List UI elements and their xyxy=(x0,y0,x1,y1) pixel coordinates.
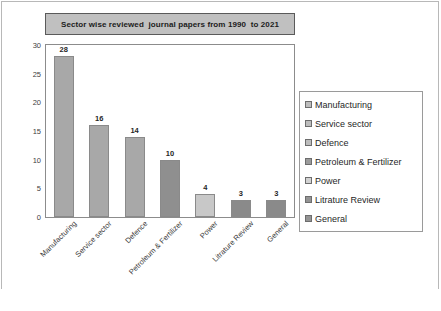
bar-item[interactable]: 3 xyxy=(266,45,286,217)
y-axis-tick-label: 5 xyxy=(37,184,41,193)
bar-item[interactable]: 3 xyxy=(231,45,251,217)
legend-swatch-icon xyxy=(305,196,312,203)
bar-rect xyxy=(160,160,180,217)
y-axis-tick-label: 0 xyxy=(37,213,41,222)
bar-rect xyxy=(195,194,215,217)
bar-value-label: 10 xyxy=(166,149,174,158)
legend-item-label: Litrature Review xyxy=(315,195,380,205)
chart-title: Sector wise reviewed journal papers from… xyxy=(61,20,279,29)
legend-item[interactable]: Service sector xyxy=(305,114,420,133)
y-axis-tick-label: 15 xyxy=(33,127,41,136)
legend-item-label: Manufacturing xyxy=(315,100,372,110)
bar-item[interactable]: 4 xyxy=(195,45,215,217)
legend-item[interactable]: Litrature Review xyxy=(305,190,420,209)
x-axis-tick-label: Service sector xyxy=(74,219,114,259)
bar-value-label: 3 xyxy=(239,189,243,198)
legend-item[interactable]: Defence xyxy=(305,133,420,152)
bar-rect xyxy=(89,125,109,217)
x-axis-tick-label: Power xyxy=(198,219,219,240)
legend-swatch-icon xyxy=(305,215,312,222)
y-axis-tick-label: 25 xyxy=(33,69,41,78)
bar-rect xyxy=(125,137,145,217)
chart-title-box: Sector wise reviewed journal papers from… xyxy=(45,13,295,35)
legend-item[interactable]: Power xyxy=(305,171,420,190)
bar-value-label: 4 xyxy=(203,183,207,192)
bar-value-label: 3 xyxy=(274,189,278,198)
legend-swatch-icon xyxy=(305,120,312,127)
bar-item[interactable]: 28 xyxy=(54,45,74,217)
bar-item[interactable]: 14 xyxy=(125,45,145,217)
legend-swatch-icon xyxy=(305,158,312,165)
bar-rect xyxy=(54,56,74,217)
x-axis-tick-label: Defence xyxy=(123,219,149,245)
chart-figure: Sector wise reviewed journal papers from… xyxy=(0,0,441,311)
y-axis: 051015202530 xyxy=(18,44,44,218)
legend-swatch-icon xyxy=(305,101,312,108)
legend-item-label: Petroleum & Fertilizer xyxy=(315,157,402,167)
x-axis-labels: ManufacturingService sectorDefencePetrol… xyxy=(46,219,294,309)
bar-value-label: 14 xyxy=(130,126,138,135)
legend-item-label: Defence xyxy=(315,138,349,148)
bar-rect xyxy=(231,200,251,217)
bar-rect xyxy=(266,200,286,217)
bar-item[interactable]: 16 xyxy=(89,45,109,217)
legend-item-label: Power xyxy=(315,176,341,186)
y-axis-tick-label: 20 xyxy=(33,98,41,107)
legend-swatch-icon xyxy=(305,177,312,184)
legend-item[interactable]: Manufacturing xyxy=(305,95,420,114)
legend-item-label: Service sector xyxy=(315,119,372,129)
bar-value-label: 16 xyxy=(95,114,103,123)
x-axis-tick-label: Manufacturing xyxy=(38,219,78,259)
bar-item[interactable]: 10 xyxy=(160,45,180,217)
legend-item-label: General xyxy=(315,214,347,224)
chart-legend: ManufacturingService sectorDefence Petro… xyxy=(299,91,423,232)
legend-item[interactable]: Petroleum & Fertilizer xyxy=(305,152,420,171)
bar-value-label: 28 xyxy=(60,45,68,54)
x-axis-tick-label: General xyxy=(265,219,290,244)
legend-swatch-icon xyxy=(305,139,312,146)
bar-series: 28161410433 xyxy=(46,45,294,217)
legend-item[interactable]: General xyxy=(305,209,420,228)
y-axis-tick-label: 10 xyxy=(33,155,41,164)
y-axis-tick-label: 30 xyxy=(33,41,41,50)
